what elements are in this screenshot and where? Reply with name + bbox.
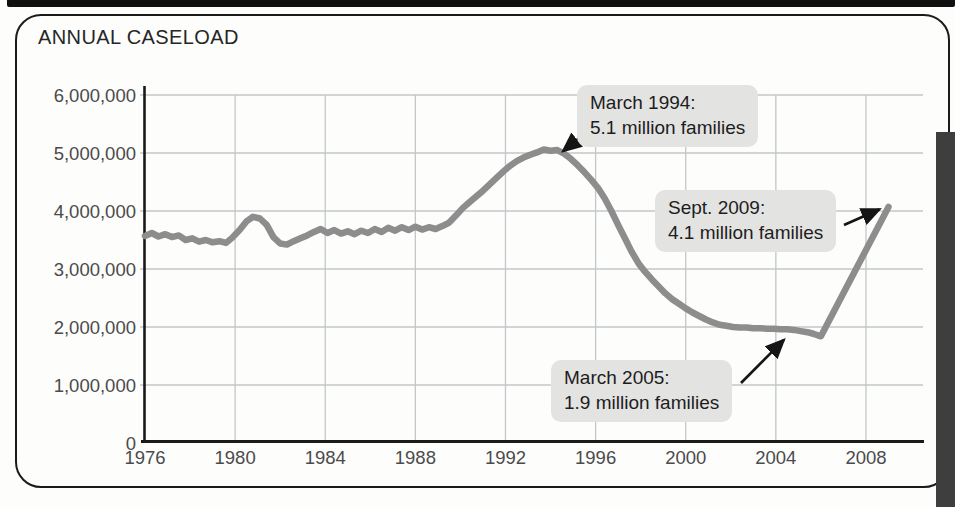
y-tick-label: 4,000,000: [54, 201, 136, 222]
x-tick-label: 1996: [575, 447, 616, 468]
x-tick-label: 1984: [305, 447, 346, 468]
annotation-line-1: March 1994:: [590, 90, 745, 115]
chart-title: ANNUAL CASELOAD: [38, 26, 239, 49]
x-tick-label: 2008: [845, 447, 886, 468]
annotation-march-1994: March 1994: 5.1 million families: [577, 85, 758, 147]
x-tick-label: 2004: [755, 447, 796, 468]
annotation-arrow: [741, 340, 784, 383]
y-tick-label: 2,000,000: [54, 317, 136, 338]
y-tick-label: 1,000,000: [54, 375, 136, 396]
x-tick-label: 1988: [395, 447, 436, 468]
annotation-line-2: 1.9 million families: [564, 390, 719, 415]
x-tick-label: 1976: [124, 447, 165, 468]
annotation-line-1: Sept. 2009:: [668, 195, 823, 220]
x-tick-label: 2000: [665, 447, 706, 468]
y-tick-label: 5,000,000: [54, 143, 136, 164]
x-tick-label: 1980: [215, 447, 256, 468]
caseload-line-chart: 01,000,0002,000,0003,000,0004,000,0005,0…: [0, 0, 955, 507]
annotation-sept-2009: Sept. 2009: 4.1 million families: [655, 190, 836, 252]
y-tick-label: 6,000,000: [54, 85, 136, 106]
scan-edge-right-bar: [936, 132, 955, 507]
scan-edge-top-bar: [7, 0, 955, 7]
figure-page: 01,000,0002,000,0003,000,0004,000,0005,0…: [0, 0, 955, 507]
annotation-line-1: March 2005:: [564, 365, 719, 390]
y-tick-label: 3,000,000: [54, 259, 136, 280]
annotation-march-2005: March 2005: 1.9 million families: [551, 360, 732, 422]
annotation-line-2: 4.1 million families: [668, 220, 823, 245]
annotation-line-2: 5.1 million families: [590, 115, 745, 140]
x-tick-label: 1992: [485, 447, 526, 468]
